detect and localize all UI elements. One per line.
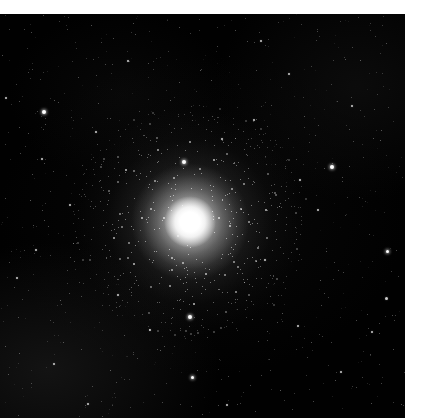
cluster-member-star: [154, 251, 155, 252]
field-star: [268, 359, 269, 360]
field-star: [319, 36, 320, 37]
field-star: [237, 404, 238, 405]
field-star: [199, 30, 200, 31]
field-star: [294, 37, 295, 38]
field-star: [265, 45, 266, 46]
cluster-member-star: [95, 206, 96, 207]
cluster-member-star: [274, 184, 275, 185]
cluster-member-star: [233, 124, 234, 125]
cluster-member-star: [108, 272, 109, 273]
cluster-member-star: [278, 295, 279, 296]
cluster-member-star: [93, 227, 94, 228]
cluster-member-star: [209, 269, 210, 270]
field-star: [393, 121, 394, 122]
cluster-member-star: [127, 302, 128, 303]
field-star: [22, 299, 23, 300]
field-star: [160, 57, 161, 58]
field-star: [274, 349, 275, 350]
cluster-member-star: [194, 335, 195, 336]
cluster-member-star: [221, 258, 222, 259]
cluster-member-star: [228, 302, 229, 303]
cluster-member-star: [218, 289, 219, 290]
field-star: [30, 24, 31, 25]
cluster-member-star: [179, 157, 180, 158]
field-star: [136, 18, 137, 19]
field-star: [401, 157, 402, 158]
cluster-member-star: [185, 330, 187, 332]
field-star: [314, 118, 315, 119]
field-star: [383, 16, 384, 17]
cluster-member-star: [148, 154, 149, 155]
field-star: [1, 308, 2, 309]
field-star: [320, 280, 321, 281]
cluster-member-star: [244, 171, 245, 172]
cluster-member-star: [251, 138, 252, 139]
cluster-member-star: [150, 155, 151, 156]
field-star: [105, 64, 106, 65]
cluster-member-star: [214, 232, 215, 233]
field-star: [393, 349, 394, 350]
cluster-member-star: [76, 243, 77, 244]
field-star: [69, 204, 71, 206]
field-star: [195, 120, 196, 121]
cluster-member-star: [116, 302, 117, 303]
cluster-member-star: [187, 270, 188, 271]
field-star: [260, 40, 262, 42]
field-star: [3, 321, 4, 322]
cluster-member-star: [194, 174, 195, 175]
cluster-member-star: [279, 206, 280, 207]
cluster-member-star: [135, 276, 136, 277]
cluster-member-star: [250, 224, 251, 225]
cluster-member-star: [176, 265, 177, 266]
field-star: [291, 206, 292, 207]
cluster-member-star: [231, 142, 232, 143]
field-star: [330, 165, 334, 169]
cluster-member-star: [192, 296, 193, 297]
field-star: [102, 416, 103, 417]
cluster-member-star: [150, 208, 152, 210]
cluster-member-star: [77, 242, 79, 244]
field-star: [58, 335, 59, 336]
cluster-member-star: [233, 118, 234, 119]
field-star: [139, 111, 140, 112]
cluster-member-star: [291, 172, 292, 173]
field-star: [348, 21, 349, 22]
field-star: [131, 32, 132, 33]
cluster-member-star: [286, 217, 287, 218]
field-star: [97, 144, 98, 145]
field-star: [335, 380, 336, 381]
field-star: [179, 82, 180, 83]
cluster-member-star: [214, 280, 215, 281]
field-star: [224, 25, 225, 26]
cluster-member-star: [273, 276, 274, 277]
field-star: [280, 147, 281, 148]
cluster-member-star: [177, 175, 178, 176]
cluster-member-star: [108, 200, 109, 201]
field-star: [297, 325, 299, 327]
cluster-member-star: [235, 244, 236, 245]
field-star: [271, 164, 272, 165]
cluster-member-star: [220, 177, 221, 178]
field-star: [363, 157, 364, 158]
cluster-member-star: [173, 177, 175, 179]
cluster-member-star: [199, 168, 201, 170]
cluster-member-star: [145, 241, 146, 242]
field-star: [180, 404, 181, 405]
cluster-member-star: [159, 228, 160, 229]
cluster-member-star: [288, 159, 290, 161]
field-star: [367, 314, 368, 315]
cluster-member-star: [266, 164, 267, 165]
cluster-member-star: [228, 254, 229, 255]
cluster-member-star: [287, 159, 288, 160]
cluster-member-star: [148, 326, 149, 327]
cluster-member-star: [214, 119, 215, 120]
field-star: [302, 347, 303, 348]
cluster-member-star: [301, 224, 302, 225]
cluster-member-star: [175, 184, 176, 185]
cluster-member-star: [134, 315, 135, 316]
cluster-member-star: [285, 200, 286, 201]
cluster-member-star: [276, 239, 277, 240]
field-star: [41, 116, 42, 117]
field-star: [25, 318, 26, 319]
field-star: [337, 101, 338, 102]
